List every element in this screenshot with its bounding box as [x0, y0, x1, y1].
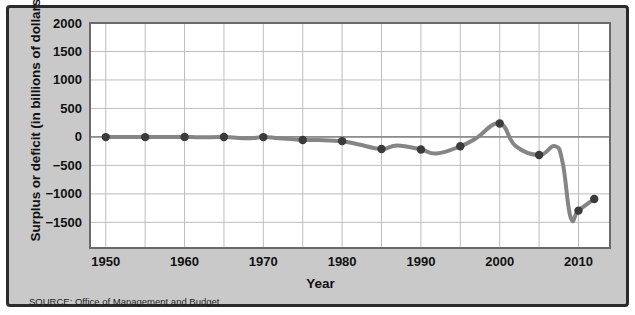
- svg-text:1960: 1960: [170, 254, 199, 269]
- svg-text:2000: 2000: [485, 254, 514, 269]
- svg-text:1500: 1500: [53, 44, 82, 59]
- svg-text:0: 0: [75, 129, 82, 144]
- chart-figure: Surplus or deficit (in billions of dolla…: [0, 0, 635, 315]
- svg-text:500: 500: [60, 101, 82, 116]
- svg-text:1980: 1980: [328, 254, 357, 269]
- svg-text:2000: 2000: [53, 16, 82, 31]
- svg-text:1990: 1990: [406, 254, 435, 269]
- svg-text:1000: 1000: [53, 72, 82, 87]
- line-chart: 2000150010005000−500−1000−1500 195019601…: [9, 8, 632, 310]
- svg-text:−1000: −1000: [45, 186, 82, 201]
- svg-text:2010: 2010: [564, 254, 593, 269]
- chart-frame: Surplus or deficit (in billions of dolla…: [6, 5, 629, 307]
- y-axis-tick-labels: 2000150010005000−500−1000−1500: [45, 16, 82, 230]
- svg-text:−1500: −1500: [45, 215, 82, 230]
- svg-text:1970: 1970: [249, 254, 278, 269]
- svg-text:1950: 1950: [91, 254, 120, 269]
- x-axis-tick-labels: 1950196019701980199020002010: [91, 254, 593, 269]
- svg-text:−500: −500: [53, 158, 82, 173]
